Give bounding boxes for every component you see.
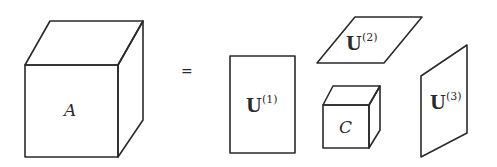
factor-u1-base: U: [246, 95, 262, 116]
factor-matrix-u3: U (3): [421, 45, 467, 157]
equals-sign: =: [181, 63, 193, 79]
factor-matrix-u2: U (2): [317, 17, 422, 63]
factor-u3-base: U: [430, 92, 446, 113]
core-tensor-c: C: [323, 86, 380, 148]
tensor-label: A: [62, 100, 76, 120]
core-label: C: [339, 117, 352, 137]
tensor-cube-a: A: [25, 21, 143, 157]
factor-u2-sup: (2): [362, 31, 378, 44]
factor-u2-base: U: [346, 33, 362, 54]
factor-u3-sup: (3): [446, 90, 462, 103]
factor-u1-sup: (1): [262, 93, 278, 106]
tucker-decomposition-diagram: A = U (1) U (2) C U (3): [0, 0, 497, 167]
factor-matrix-u1: U (1): [230, 56, 295, 153]
